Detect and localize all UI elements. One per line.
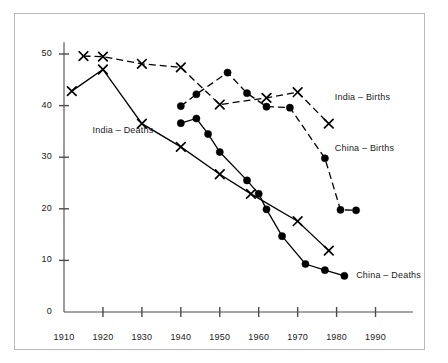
data-point-marker [224, 69, 231, 76]
data-point-marker [255, 190, 262, 197]
series-annotation-label: China – Deaths [356, 270, 421, 280]
data-point-marker [302, 260, 309, 267]
data-point-marker [99, 65, 108, 74]
x-axis-tick-label: 1980 [317, 332, 357, 342]
x-axis-tick-label: 1950 [200, 332, 240, 342]
data-point-marker [177, 103, 184, 110]
data-point-marker [321, 155, 328, 162]
series-line [72, 69, 329, 250]
x-axis-tick-label: 1990 [356, 332, 396, 342]
y-axis-tick-label: 30 [30, 151, 52, 161]
data-point-marker [293, 88, 302, 97]
data-point-marker [263, 103, 270, 110]
data-point-marker [337, 206, 344, 213]
data-point-marker [177, 143, 186, 152]
data-point-marker [341, 272, 348, 279]
data-point-marker [263, 206, 270, 213]
x-axis-tick-label: 1940 [161, 332, 201, 342]
data-point-marker [293, 217, 302, 226]
data-point-marker [193, 115, 200, 122]
data-point-marker [243, 177, 250, 184]
data-point-marker [325, 119, 334, 128]
data-point-marker [193, 91, 200, 98]
x-axis-tick-label: 1960 [239, 332, 279, 342]
y-axis-tick-label: 40 [30, 100, 52, 110]
chart-plot-area [0, 0, 448, 363]
data-point-marker [278, 233, 285, 240]
x-axis-tick-label: 1970 [278, 332, 318, 342]
series-line [83, 56, 328, 124]
y-axis-tick-label: 20 [30, 203, 52, 213]
data-point-marker [286, 104, 293, 111]
data-point-marker [321, 267, 328, 274]
data-point-marker [243, 90, 250, 97]
x-axis-tick-label: 1910 [44, 332, 84, 342]
series-line [181, 119, 345, 276]
series-annotation-label: India – Births [335, 92, 390, 102]
series-annotation-label: China – Births [335, 143, 394, 153]
data-point-marker [325, 246, 334, 255]
data-point-marker [177, 63, 186, 72]
x-axis-tick-label: 1920 [83, 332, 123, 342]
data-point-marker [67, 87, 76, 96]
x-axis-tick-label: 1930 [122, 332, 162, 342]
y-axis-tick-label: 0 [30, 306, 52, 316]
series-annotation-label: India – Deaths [93, 125, 154, 135]
data-point-marker [215, 170, 224, 179]
data-point-marker [247, 190, 256, 199]
data-point-marker [204, 130, 211, 137]
y-axis-tick-label: 50 [30, 48, 52, 58]
data-point-marker [352, 207, 359, 214]
data-point-marker [216, 148, 223, 155]
chart-figure: 0102030405019101920193019401950196019701… [0, 0, 448, 363]
y-axis-tick-label: 10 [30, 254, 52, 264]
data-point-marker [177, 120, 184, 127]
